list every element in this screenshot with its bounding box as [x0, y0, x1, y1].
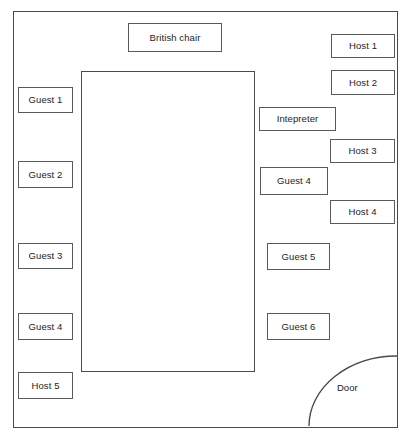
seat-label: Guest 1: [29, 95, 63, 105]
seat-label: Guest 4: [277, 176, 311, 186]
seat-guest-4-left[interactable]: Guest 4: [18, 313, 73, 340]
seat-label: Host 1: [349, 41, 377, 51]
seat-label: British chair: [150, 33, 201, 43]
seat-host-2[interactable]: Host 2: [331, 70, 395, 95]
door-label: Door: [337, 382, 358, 393]
seat-label: Guest 5: [282, 252, 316, 262]
seat-guest-2[interactable]: Guest 2: [18, 161, 73, 188]
seat-label: Guest 2: [29, 170, 63, 180]
seat-host-5[interactable]: Host 5: [18, 372, 73, 399]
seat-guest-3[interactable]: Guest 3: [18, 243, 73, 269]
seat-label: Host 3: [348, 146, 376, 156]
seat-guest-5[interactable]: Guest 5: [267, 243, 330, 270]
seat-label: Intepreter: [277, 114, 319, 124]
seat-label: Host 4: [348, 207, 376, 217]
seat-label: Host 5: [31, 381, 59, 391]
seating-floorplan-diagram: Door British chair Host 1 Host 2 Guest 1…: [0, 0, 410, 440]
seat-host-1[interactable]: Host 1: [331, 34, 395, 58]
seat-guest-6[interactable]: Guest 6: [267, 313, 330, 340]
seat-interpreter[interactable]: Intepreter: [259, 107, 336, 131]
conference-table: [81, 71, 255, 372]
seat-british-chair[interactable]: British chair: [128, 23, 222, 52]
seat-guest-4-right[interactable]: Guest 4: [260, 167, 328, 195]
seat-label: Guest 6: [282, 322, 316, 332]
seat-label: Guest 3: [29, 251, 63, 261]
seat-label: Guest 4: [29, 322, 63, 332]
seat-host-4[interactable]: Host 4: [330, 200, 395, 224]
seat-label: Host 2: [349, 78, 377, 88]
seat-guest-1[interactable]: Guest 1: [18, 87, 73, 113]
seat-host-3[interactable]: Host 3: [330, 139, 395, 163]
